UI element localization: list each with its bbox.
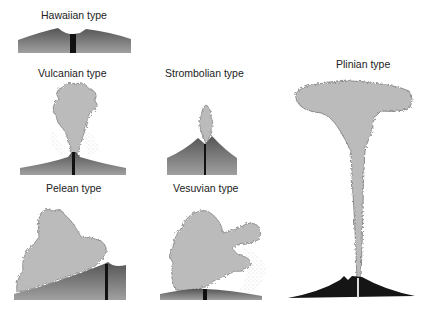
strombolian-conduit — [204, 144, 206, 175]
vesuvian-volcano — [160, 209, 266, 300]
vulcanian-conduit — [72, 152, 75, 175]
pelean-conduit — [105, 264, 108, 300]
label-pelean: Pelean type — [46, 182, 101, 194]
label-plinian: Plinian type — [336, 58, 390, 70]
label-vesuvian: Vesuvian type — [173, 182, 238, 194]
vesuvian-conduit — [203, 289, 207, 300]
pelean-volcano — [14, 208, 126, 300]
strombolian-volcano — [167, 104, 237, 175]
vulcanian-volcano — [20, 82, 126, 175]
plinian-conduit — [357, 278, 359, 298]
hawaiian-volcano — [18, 28, 131, 53]
strombolian-cloud — [199, 104, 212, 143]
plinian-column — [295, 80, 411, 280]
eruption-types-diagram — [0, 0, 432, 314]
label-vulcanian: Vulcanian type — [38, 67, 107, 79]
hawaiian-conduit — [70, 34, 76, 53]
label-strombolian: Strombolian type — [165, 67, 244, 79]
plinian-volcano — [288, 80, 415, 298]
label-hawaiian: Hawaiian type — [41, 9, 107, 21]
